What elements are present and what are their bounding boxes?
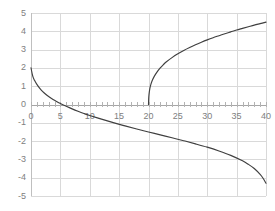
x-minor-tick [66,102,67,107]
x-minor-tick [149,102,150,107]
gridline-horizontal [31,196,266,197]
y-tick-label: -3 [0,155,26,164]
x-minor-tick [201,102,202,107]
y-tick-label: 3 [0,45,26,54]
y-tick-label: 2 [0,63,26,72]
x-tick-label: 5 [48,112,72,121]
x-minor-tick [60,102,61,107]
y-tick-label: -2 [0,137,26,146]
x-minor-tick [266,102,267,107]
x-minor-tick [243,102,244,107]
x-minor-tick [172,102,173,107]
x-minor-tick [131,102,132,107]
y-tick-label: -4 [0,173,26,182]
x-tick-label: 25 [166,112,190,121]
x-minor-tick [119,102,120,107]
y-tick-label: 4 [0,27,26,36]
chart-container: 543210-1-2-3-4-5 0510152025303540 [0,0,275,211]
y-tick-label: 5 [0,9,26,18]
x-minor-tick [225,102,226,107]
x-tick-label: 15 [107,112,131,121]
x-minor-tick [184,102,185,107]
x-minor-tick [254,102,255,107]
x-tick-label: 35 [225,112,249,121]
x-minor-tick [49,102,50,107]
x-minor-tick [207,102,208,107]
x-minor-tick [213,102,214,107]
x-minor-tick [219,102,220,107]
x-minor-tick [166,102,167,107]
x-minor-tick [107,102,108,107]
y-tick-label: 1 [0,82,26,91]
x-minor-tick [78,102,79,107]
x-minor-tick [190,102,191,107]
x-minor-tick [196,102,197,107]
x-minor-tick [237,102,238,107]
x-tick-label: 20 [137,112,161,121]
x-minor-tick [231,102,232,107]
x-minor-tick [178,102,179,107]
y-tick-label: -5 [0,192,26,201]
x-minor-tick [260,102,261,107]
x-tick-label: 40 [254,112,275,121]
x-minor-tick [90,102,91,107]
y-tick-label: 0 [0,100,26,109]
x-minor-tick [143,102,144,107]
x-minor-tick [125,102,126,107]
x-minor-tick [154,102,155,107]
x-tick-label: 0 [19,112,43,121]
x-minor-tick [137,102,138,107]
x-minor-tick [248,102,249,107]
x-minor-tick [160,102,161,107]
x-tick-label: 30 [195,112,219,121]
x-minor-tick [43,102,44,107]
x-minor-tick [102,102,103,107]
x-minor-tick [31,102,32,107]
x-minor-tick [84,102,85,107]
x-minor-tick [96,102,97,107]
x-tick-label: 10 [78,112,102,121]
x-minor-tick [37,102,38,107]
x-minor-tick [113,102,114,107]
x-minor-tick [55,102,56,107]
x-minor-tick [72,102,73,107]
